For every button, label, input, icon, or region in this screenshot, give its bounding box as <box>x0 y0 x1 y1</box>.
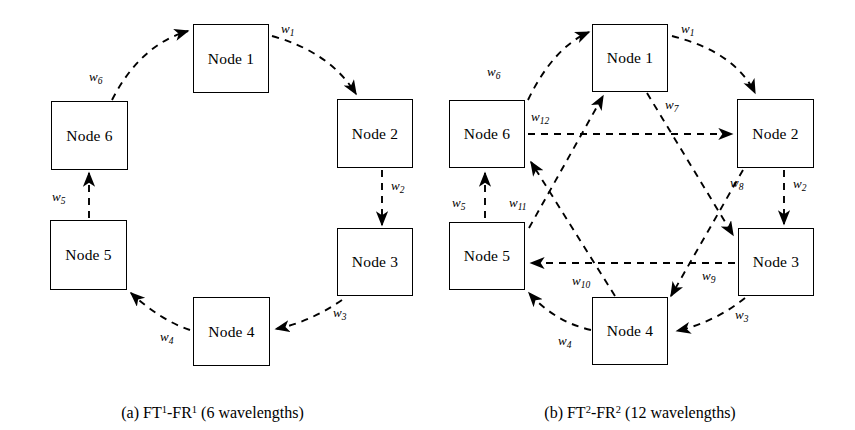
caption-tail: (12 wavelengths) <box>625 404 736 421</box>
edge-w4-path <box>529 293 591 330</box>
edge-label-w12: w12 <box>531 110 549 126</box>
caption-index: (b) <box>544 404 563 421</box>
caption-fr-sup: 1 <box>192 404 197 415</box>
edge-label-w2: w2 <box>793 177 806 193</box>
node-box-1[interactable]: Node 1 <box>193 24 269 93</box>
edge-label-w11: w11 <box>509 196 526 212</box>
caption-fr: FR <box>596 404 616 421</box>
caption-fr: FR <box>172 404 192 421</box>
edge-label-w4: w4 <box>160 330 173 346</box>
node-box-6[interactable]: Node 6 <box>449 100 525 168</box>
node-box-2[interactable]: Node 2 <box>337 99 413 168</box>
edge-w6-path <box>112 31 188 100</box>
node-box-3[interactable]: Node 3 <box>738 228 814 296</box>
node-label: Node 1 <box>607 49 653 67</box>
node-label: Node 6 <box>464 125 510 143</box>
node-box-5[interactable]: Node 5 <box>50 220 127 290</box>
node-box-4[interactable]: Node 4 <box>193 297 270 366</box>
edge-w6-path <box>528 32 589 100</box>
node-label: Node 3 <box>352 253 398 271</box>
panel-b-caption: (b) FT2-FR2 (12 wavelengths) <box>425 404 855 422</box>
node-box-5[interactable]: Node 5 <box>449 222 525 290</box>
caption-ft: FT <box>567 404 586 421</box>
caption-fr-sup: 2 <box>616 404 621 415</box>
edge-label-w9: w9 <box>702 269 715 285</box>
edge-w7-path <box>647 93 733 235</box>
panel-a-caption: (a) FT1-FR1 (6 wavelengths) <box>0 404 425 422</box>
edge-label-w7: w7 <box>665 98 678 114</box>
edge-label-w10: w10 <box>572 274 590 290</box>
diagram-panel-b: Node 1 Node 2 Node 3 Node 4 Node 5 Node … <box>425 0 855 430</box>
edge-label-w3: w3 <box>735 308 748 324</box>
node-label: Node 4 <box>208 323 254 341</box>
edge-label-w6: w6 <box>89 70 102 86</box>
edge-label-w1: w1 <box>281 22 294 38</box>
node-box-6[interactable]: Node 6 <box>51 101 128 170</box>
diagram-panel-a: Node 1 Node 2 Node 3 Node 4 Node 5 Node … <box>0 0 425 430</box>
node-label: Node 2 <box>752 125 798 143</box>
node-label: Node 3 <box>753 253 799 271</box>
edge-label-w6: w6 <box>487 65 500 81</box>
edge-w1-path <box>272 36 356 94</box>
node-label: Node 5 <box>464 247 510 265</box>
edge-w4-path <box>131 293 190 330</box>
node-label: Node 6 <box>66 127 112 145</box>
edge-label-w1: w1 <box>681 22 694 38</box>
node-box-4[interactable]: Node 4 <box>592 297 668 365</box>
edge-label-w3: w3 <box>333 306 346 322</box>
edge-label-w8: w8 <box>730 176 743 192</box>
node-label: Node 4 <box>607 322 653 340</box>
caption-tail: (6 wavelengths) <box>201 404 304 421</box>
figure-container: Node 1 Node 2 Node 3 Node 4 Node 5 Node … <box>0 0 855 430</box>
edge-label-w5: w5 <box>452 196 465 212</box>
edge-label-w4: w4 <box>558 334 571 350</box>
node-box-2[interactable]: Node 2 <box>737 99 814 168</box>
node-box-3[interactable]: Node 3 <box>337 228 413 296</box>
node-label: Node 5 <box>65 246 111 264</box>
edge-label-w2: w2 <box>391 179 404 195</box>
node-label: Node 2 <box>352 125 398 143</box>
edge-w1-path <box>672 36 755 93</box>
edge-label-w5: w5 <box>52 190 65 206</box>
caption-index: (a) <box>121 404 139 421</box>
caption-ft: FT <box>143 404 162 421</box>
node-box-1[interactable]: Node 1 <box>592 24 668 92</box>
node-label: Node 1 <box>208 50 254 68</box>
